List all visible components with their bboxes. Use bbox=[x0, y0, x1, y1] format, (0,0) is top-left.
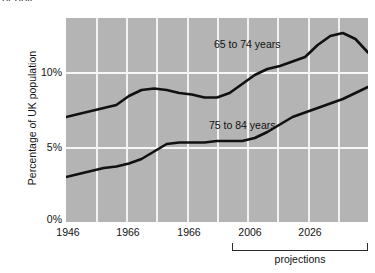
x-tick-label: 2006 bbox=[228, 226, 272, 238]
y-tick-label: 0% bbox=[28, 213, 62, 225]
plot-area: 65 to 74 years 75 to 84 years bbox=[66, 18, 368, 222]
projections-bracket bbox=[232, 243, 368, 252]
series-annotation-65-74: 65 to 74 years bbox=[214, 38, 281, 50]
x-tick-label: 2026 bbox=[288, 226, 332, 238]
x-axis-ticks: 1946 1966 1966 2006 2026 bbox=[0, 226, 375, 242]
x-tick-label: 1946 bbox=[46, 226, 90, 238]
series-annotation-75-84: 75 to 84 years bbox=[209, 119, 276, 131]
projections-label: projections bbox=[232, 253, 368, 265]
y-tick-label: 10% bbox=[28, 66, 62, 78]
y-tick-label: 5% bbox=[28, 141, 62, 153]
line-75-to-84-years bbox=[66, 87, 368, 177]
bracket-bar bbox=[232, 250, 368, 251]
chart-figure: people Percentage of UK population 65 to… bbox=[0, 0, 375, 273]
x-tick-label: 1966 bbox=[106, 226, 150, 238]
bracket-right-tick bbox=[367, 243, 368, 251]
x-tick-label: 1966 bbox=[167, 226, 211, 238]
